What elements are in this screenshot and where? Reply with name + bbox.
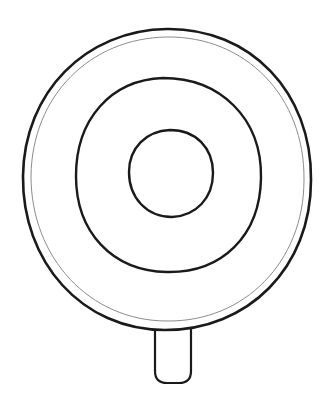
lollipop-stick — [155, 329, 191, 383]
outer-circle — [23, 29, 311, 330]
lollipop-drawing — [0, 0, 328, 404]
